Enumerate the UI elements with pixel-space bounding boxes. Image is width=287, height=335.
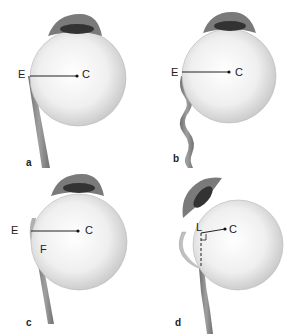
point-e-label: E [171,66,178,78]
center-point [75,74,78,77]
panel-label-d: d [175,317,181,328]
eyeball [193,200,283,290]
point-c-label: C [82,68,90,80]
eyeball [30,30,126,126]
panel-label-a: a [26,157,32,168]
pupil [63,183,95,193]
center-point [227,70,230,73]
point-c-label: C [235,66,243,78]
panel-d: L C d [175,178,283,334]
point-e-label: E [11,224,18,236]
center-point [76,229,79,232]
panel-label-b: b [173,153,179,164]
pupil [214,21,246,31]
point-l-label: L [196,221,202,233]
panel-b: E C b [171,12,276,168]
panel-label-c: c [26,317,32,328]
panel-c: E C F c [11,174,127,328]
center-point [223,227,226,230]
point-c-label: C [229,223,237,235]
eyeball [182,29,276,123]
eye-diagram: E C a E C b E C F c [0,0,287,335]
point-e-label: E [18,68,25,80]
eyeball [31,194,127,290]
point-f-label: F [40,243,47,255]
point-c-label: C [85,224,93,236]
panel-a: E C a [18,14,126,168]
pupil [60,24,94,34]
